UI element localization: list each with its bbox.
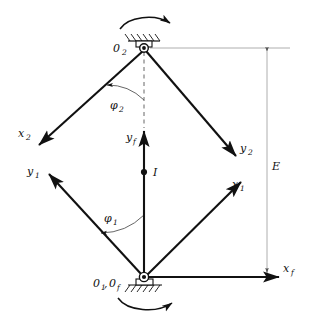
label-point-i: I [152,166,158,179]
diagram-canvas: 0 2 0 1 , 0 f x 2 y 1 y 2 x 1 [0,0,311,326]
label-of-base: 0 [109,277,116,290]
top-support-hatching [125,34,160,41]
label-y1-base: y [26,165,34,178]
bottom-rotation-arrow [118,298,172,310]
mechanism-diagram: 0 2 0 1 , 0 f x 2 y 1 y 2 x 1 [0,0,311,326]
label-o2: 0 2 [113,42,127,57]
point-i-marker [141,169,147,175]
label-y1: y 1 [26,165,40,180]
top-pivot-center [142,46,146,50]
label-o2-sub: 2 [121,48,127,57]
phi2-arc [107,85,144,100]
label-x1-base: x [232,178,239,191]
link-upper-right-y2 [146,51,236,156]
link-lower-right-x1 [147,182,241,275]
link-lower-left-y1 [49,174,142,275]
label-phi1: φ 1 [104,212,118,227]
label-yf-base: y [125,131,133,144]
label-x1-sub: 1 [240,184,245,193]
label-o1-base: 0 [93,277,100,290]
label-y2-base: y [239,142,247,155]
bottom-ground-support [125,272,162,292]
label-xf: x f [283,262,295,277]
label-xf-sub: f [290,268,295,277]
label-xf-base: x [283,262,290,275]
label-y1-sub: 1 [35,171,40,180]
label-o1-of: 0 1 , 0 f [93,277,121,292]
label-yf-sub: f [132,137,137,146]
label-y2: y 2 [239,142,253,157]
label-o1of-comma: , [104,277,108,290]
label-x2: x 2 [18,127,31,142]
top-ground-support [125,34,160,52]
linkage-bars [39,51,241,275]
label-of-sub: f [116,283,121,292]
label-phi1-sub: 1 [113,218,118,227]
label-phi2-sub: 2 [118,105,124,114]
top-rotation-arrow [120,17,170,29]
label-phi2: φ 2 [110,99,124,114]
label-dimension-e: E [271,160,280,173]
label-phi1-base: φ [104,212,112,225]
label-phi2-base: φ [110,99,118,112]
label-o2-base: 0 [113,42,120,55]
label-x2-sub: 2 [25,133,31,142]
label-y2-sub: 2 [247,148,253,157]
label-yf: y f [125,131,137,146]
frame-axes [144,131,279,277]
bottom-support-hatching [125,285,160,292]
bottom-pivot-center [142,275,146,279]
label-x2-base: x [18,127,25,140]
